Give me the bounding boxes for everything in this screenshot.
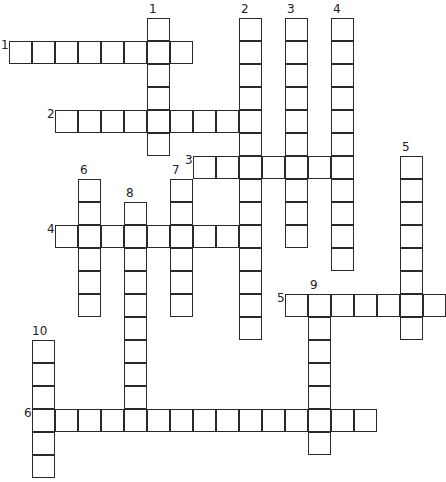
crossword-cell[interactable] [285, 179, 308, 202]
crossword-cell[interactable] [239, 18, 262, 41]
crossword-cell[interactable] [124, 110, 147, 133]
crossword-cell[interactable] [239, 110, 262, 133]
crossword-cell[interactable] [124, 317, 147, 340]
crossword-cell[interactable] [285, 133, 308, 156]
crossword-cell[interactable] [308, 317, 331, 340]
crossword-cell[interactable] [78, 409, 101, 432]
crossword-cell[interactable] [308, 363, 331, 386]
crossword-cell[interactable] [170, 409, 193, 432]
crossword-cell[interactable] [239, 271, 262, 294]
crossword-cell[interactable] [170, 179, 193, 202]
crossword-cell[interactable] [239, 225, 262, 248]
crossword-cell[interactable] [170, 225, 193, 248]
crossword-cell[interactable] [239, 248, 262, 271]
crossword-cell[interactable] [78, 110, 101, 133]
crossword-cell[interactable] [124, 294, 147, 317]
crossword-cell[interactable] [285, 18, 308, 41]
crossword-cell[interactable] [400, 271, 423, 294]
crossword-cell[interactable] [400, 156, 423, 179]
crossword-cell[interactable] [239, 179, 262, 202]
crossword-cell[interactable] [55, 110, 78, 133]
crossword-cell[interactable] [124, 248, 147, 271]
crossword-cell[interactable] [239, 202, 262, 225]
crossword-cell[interactable] [216, 409, 239, 432]
crossword-cell[interactable] [400, 294, 423, 317]
crossword-cell[interactable] [147, 18, 170, 41]
crossword-cell[interactable] [101, 225, 124, 248]
crossword-cell[interactable] [239, 64, 262, 87]
crossword-cell[interactable] [331, 409, 354, 432]
crossword-cell[interactable] [124, 202, 147, 225]
crossword-cell[interactable] [124, 340, 147, 363]
crossword-cell[interactable] [78, 41, 101, 64]
crossword-cell[interactable] [55, 41, 78, 64]
crossword-cell[interactable] [400, 317, 423, 340]
crossword-cell[interactable] [377, 294, 400, 317]
crossword-cell[interactable] [285, 64, 308, 87]
crossword-cell[interactable] [170, 271, 193, 294]
crossword-cell[interactable] [308, 432, 331, 455]
crossword-cell[interactable] [285, 225, 308, 248]
crossword-cell[interactable] [216, 156, 239, 179]
crossword-cell[interactable] [400, 225, 423, 248]
crossword-cell[interactable] [193, 409, 216, 432]
crossword-cell[interactable] [32, 363, 55, 386]
crossword-cell[interactable] [32, 386, 55, 409]
crossword-cell[interactable] [400, 248, 423, 271]
crossword-cell[interactable] [400, 202, 423, 225]
crossword-cell[interactable] [354, 294, 377, 317]
crossword-cell[interactable] [262, 156, 285, 179]
crossword-cell[interactable] [331, 248, 354, 271]
crossword-cell[interactable] [32, 409, 55, 432]
crossword-cell[interactable] [239, 409, 262, 432]
crossword-cell[interactable] [239, 87, 262, 110]
crossword-cell[interactable] [101, 41, 124, 64]
crossword-cell[interactable] [285, 87, 308, 110]
crossword-cell[interactable] [331, 225, 354, 248]
crossword-cell[interactable] [239, 133, 262, 156]
crossword-cell[interactable] [124, 363, 147, 386]
crossword-cell[interactable] [124, 41, 147, 64]
crossword-cell[interactable] [216, 110, 239, 133]
crossword-cell[interactable] [331, 18, 354, 41]
crossword-cell[interactable] [55, 225, 78, 248]
crossword-cell[interactable] [78, 248, 101, 271]
crossword-cell[interactable] [239, 294, 262, 317]
crossword-cell[interactable] [216, 225, 239, 248]
crossword-cell[interactable] [193, 110, 216, 133]
crossword-cell[interactable] [124, 225, 147, 248]
crossword-cell[interactable] [331, 87, 354, 110]
crossword-cell[interactable] [308, 409, 331, 432]
crossword-cell[interactable] [32, 340, 55, 363]
crossword-cell[interactable] [331, 156, 354, 179]
crossword-cell[interactable] [331, 110, 354, 133]
crossword-cell[interactable] [124, 386, 147, 409]
crossword-cell[interactable] [101, 110, 124, 133]
crossword-cell[interactable] [124, 271, 147, 294]
crossword-cell[interactable] [147, 225, 170, 248]
crossword-cell[interactable] [239, 41, 262, 64]
crossword-cell[interactable] [331, 41, 354, 64]
crossword-cell[interactable] [308, 340, 331, 363]
crossword-cell[interactable] [147, 133, 170, 156]
crossword-cell[interactable] [400, 179, 423, 202]
crossword-cell[interactable] [78, 225, 101, 248]
crossword-cell[interactable] [285, 156, 308, 179]
crossword-cell[interactable] [32, 455, 55, 478]
crossword-cell[interactable] [170, 248, 193, 271]
crossword-cell[interactable] [285, 409, 308, 432]
crossword-cell[interactable] [78, 179, 101, 202]
crossword-cell[interactable] [285, 294, 308, 317]
crossword-cell[interactable] [147, 110, 170, 133]
crossword-cell[interactable] [331, 202, 354, 225]
crossword-cell[interactable] [331, 179, 354, 202]
crossword-cell[interactable] [331, 64, 354, 87]
crossword-cell[interactable] [285, 41, 308, 64]
crossword-cell[interactable] [262, 409, 285, 432]
crossword-cell[interactable] [78, 271, 101, 294]
crossword-cell[interactable] [423, 294, 446, 317]
crossword-cell[interactable] [147, 87, 170, 110]
crossword-cell[interactable] [193, 156, 216, 179]
crossword-cell[interactable] [331, 133, 354, 156]
crossword-cell[interactable] [147, 41, 170, 64]
